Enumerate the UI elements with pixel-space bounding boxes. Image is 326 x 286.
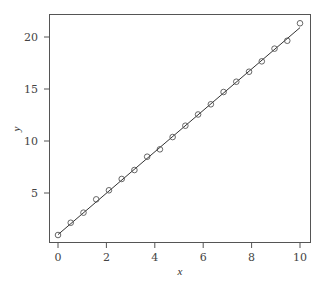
data-point (55, 232, 61, 238)
data-point (68, 220, 74, 226)
x-tick-label: 4 (151, 251, 158, 264)
y-axis: 5101520 (24, 31, 50, 200)
x-tick-label: 10 (293, 251, 307, 264)
x-axis: 0246810 (55, 243, 308, 265)
x-tick-label: 2 (103, 251, 110, 264)
data-point (106, 187, 112, 193)
x-axis-label: x (177, 265, 183, 277)
y-axis-label: y (10, 126, 22, 132)
data-point (132, 167, 138, 173)
x-tick-label: 0 (55, 251, 62, 264)
data-point (297, 20, 303, 26)
x-tick-label: 6 (200, 251, 207, 264)
data-point (272, 46, 278, 52)
y-tick-label: 20 (24, 31, 38, 44)
data-point (221, 89, 227, 95)
y-tick-label: 5 (31, 187, 38, 200)
y-tick-label: 15 (24, 83, 38, 96)
chart-canvas: 0246810 5101520 x y (0, 0, 326, 286)
data-point (259, 59, 265, 65)
fitted-line (58, 28, 300, 235)
x-tick-label: 8 (248, 251, 255, 264)
y-tick-label: 10 (24, 135, 38, 148)
